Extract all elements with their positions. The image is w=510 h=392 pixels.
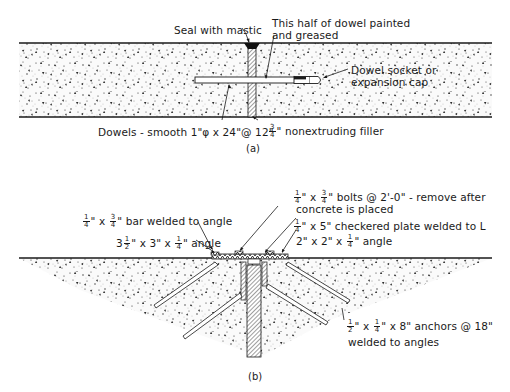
fraction: 12 [124,236,131,251]
label-dowel-painted-line1: This half of dowel painted [272,17,410,29]
label-checkered-plate: 14" x 5" checkered plate welded to L [293,219,486,234]
dowel-bar [195,77,321,84]
fraction: 34 [269,124,276,139]
label-nonextruding-filler: 34" nonextruding filler [268,124,384,139]
label-dowel-socket-line2: expansion cap [351,76,428,88]
filler-strip-b [247,265,261,357]
fraction: 14 [175,236,182,251]
label-dowel-painted-line2: and greased [272,29,338,41]
label-3-5-angle: 312" x 3" x 14" angle [116,236,221,251]
fraction: 34 [110,214,117,229]
fraction: 14 [83,214,90,229]
label-dowel-socket-line1: Dowel socket or [351,64,436,76]
label-2x2-angle: 2" x 2" x 14" angle [296,234,392,249]
label-seal-with-mastic: Seal with mastic [174,24,262,36]
fraction: 14 [374,319,381,334]
fraction: 14 [294,219,301,234]
label-anchors-line1: 12" x 14" x 8" anchors @ 18" [346,319,493,334]
label-bar-welded-to-angle: 14" x 34" bar welded to angle [82,214,232,229]
label-bolts-line2: concrete is placed [296,203,394,215]
fraction: 12 [347,319,354,334]
label-dowels-spec: Dowels - smooth 1"φ x 24"@ 12" [98,126,274,138]
fraction: 14 [347,234,354,249]
caption-a: (a) [246,143,260,154]
caption-b: (b) [248,371,262,382]
label-anchors-line2: welded to angles [348,336,439,348]
